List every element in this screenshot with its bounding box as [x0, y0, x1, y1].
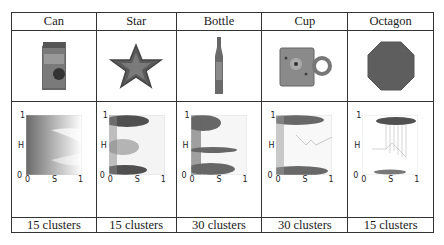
- mug-object-photo: [278, 44, 332, 88]
- clusters-can: 15 clusters: [12, 217, 97, 233]
- header-row: Can Star Bottle Cup Octagon: [12, 13, 433, 31]
- clusters-octagon: 15 clusters: [348, 217, 433, 233]
- octagon-object-photo: [367, 41, 415, 91]
- milk-carton-object-photo: [39, 40, 69, 92]
- results-table: Can Star Bottle Cup Octagon: [11, 12, 434, 233]
- header-can: Can: [12, 13, 97, 30]
- header-bottle: Bottle: [177, 13, 263, 30]
- star-object-photo: [109, 43, 163, 89]
- hs-plot-cup: 1 H 0 0 S 1: [262, 101, 348, 217]
- header-star: Star: [97, 13, 177, 30]
- chart-row: 1 H 0 0 S 1 1 H 0 0 S 1: [12, 101, 433, 218]
- hs-plot-bottle: 1 H 0 0 S 1: [177, 101, 263, 217]
- hs-plot-octagon: 1 H 0 0 S 1: [348, 101, 433, 217]
- clusters-star: 15 clusters: [97, 217, 177, 233]
- hs-plot-star: 1 H 0 0 S 1: [97, 101, 177, 217]
- bottle-object-photo: [212, 36, 226, 96]
- image-row: [12, 30, 433, 102]
- header-cup: Cup: [262, 13, 348, 30]
- hs-plot-can: 1 H 0 0 S 1: [12, 101, 97, 217]
- cluster-count-row: 15 clusters 15 clusters 30 clusters 30 c…: [12, 217, 433, 233]
- clusters-cup: 30 clusters: [262, 217, 348, 233]
- header-octagon: Octagon: [348, 13, 433, 30]
- clusters-bottle: 30 clusters: [177, 217, 263, 233]
